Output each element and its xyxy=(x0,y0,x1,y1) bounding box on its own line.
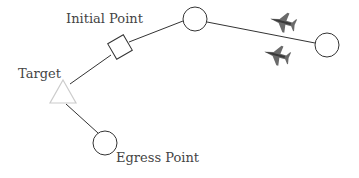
route-segment-initial-target xyxy=(70,55,111,84)
route-lines xyxy=(66,21,315,133)
fighter-jet-icon xyxy=(262,42,292,68)
egress-point-circle-icon[interactable] xyxy=(93,131,117,155)
target-triangle-icon[interactable] xyxy=(50,80,76,103)
initial-point-square-icon[interactable] xyxy=(108,35,133,60)
waypoint-1-circle-icon[interactable] xyxy=(183,7,207,31)
egress-point-label: Egress Point xyxy=(116,151,199,164)
target-label: Target xyxy=(18,67,61,80)
fighter-jet-icon xyxy=(268,9,298,35)
route-segment-waypoint2-waypoint1 xyxy=(207,22,315,43)
waypoint-2-circle-icon[interactable] xyxy=(315,33,339,57)
initial-point-label: Initial Point xyxy=(66,12,143,25)
route-segment-target-egress xyxy=(66,104,98,133)
